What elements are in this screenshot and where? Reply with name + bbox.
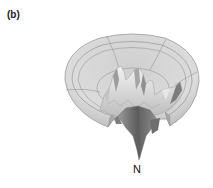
surface-dish-figure <box>0 0 213 188</box>
pole-label-n: N <box>133 163 141 175</box>
pole-spike <box>114 106 160 160</box>
